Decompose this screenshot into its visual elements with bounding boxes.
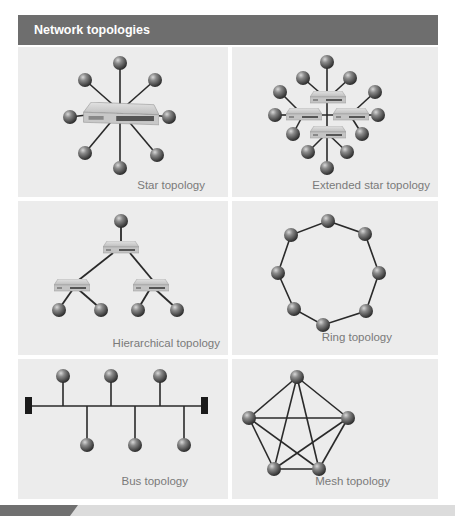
network-switch-icon — [333, 108, 369, 120]
panel-extended-star-topology: Extended star topology — [232, 47, 438, 197]
panel-star-topology: Star topology — [18, 47, 228, 197]
panel-label: Bus topology — [122, 475, 189, 487]
panel-bus-topology: Bus topology — [18, 359, 228, 499]
panel-label: Extended star topology — [312, 179, 430, 191]
network-switch-icon — [310, 126, 346, 138]
network-switch-icon — [103, 241, 139, 253]
figure-header: Network topologies — [18, 15, 438, 45]
network-switch-icon — [54, 279, 90, 291]
panel-label: Hierarchical topology — [113, 337, 220, 349]
network-switch-icon — [133, 279, 169, 291]
figure-title: Network topologies — [34, 23, 150, 37]
panel-label: Ring topology — [322, 331, 392, 343]
node-sphere-icon — [52, 214, 184, 317]
panel-ring-topology: Ring topology — [232, 201, 438, 355]
panel-label: Mesh topology — [315, 475, 390, 487]
network-switch-icon — [310, 91, 346, 103]
extended-star-topology-diagram — [232, 47, 438, 197]
bus-terminator-icon — [201, 397, 208, 414]
node-sphere-icon — [56, 369, 191, 452]
panel-label: Star topology — [137, 179, 205, 191]
hierarchical-topology-diagram — [18, 201, 228, 355]
network-switch-icon — [286, 108, 322, 120]
bus-terminator-icon — [25, 397, 32, 414]
bottom-tab — [0, 505, 70, 516]
panel-hierarchical-topology: Hierarchical topology — [18, 201, 228, 355]
network-switch-icon — [84, 102, 159, 125]
panel-mesh-topology: Mesh topology — [232, 359, 438, 499]
star-topology-diagram — [18, 47, 228, 197]
node-sphere-icon — [271, 214, 386, 332]
bottom-tab-slope — [70, 505, 78, 516]
